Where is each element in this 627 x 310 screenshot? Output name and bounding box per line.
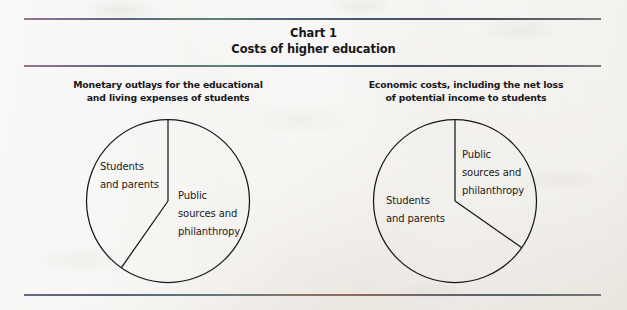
panel-left-heading: Monetary outlays for the educational and… [38, 78, 298, 104]
pie-right-label-students-and-parents: Students and parents [386, 192, 445, 228]
panel-left-heading-line1: Monetary outlays for the educational [38, 78, 298, 91]
pie-left-label-public-sources-and-philanthropy: Public sources and philanthropy [178, 187, 240, 241]
pie-divider-125deg [455, 201, 522, 248]
panel-right-heading-line2: of potential income to students [335, 91, 597, 104]
chart-title: Costs of higher education [0, 41, 627, 57]
scanned-figure-page: Chart 1 Costs of higher education Moneta… [0, 0, 627, 310]
divider-rule-top [24, 18, 601, 20]
figure-title-block: Chart 1 Costs of higher education [0, 25, 627, 57]
panel-left-heading-line2: and living expenses of students [38, 91, 298, 104]
chart-number: Chart 1 [0, 25, 627, 41]
panel-right-heading-line1: Economic costs, including the net loss [335, 78, 597, 91]
divider-rule-bottom [24, 294, 601, 296]
panel-monetary-outlays: Monetary outlays for the educational and… [38, 78, 298, 104]
pie-left-label-students-and-parents: Students and parents [100, 158, 159, 194]
pie-divider-215deg [121, 201, 168, 268]
panel-economic-costs: Economic costs, including the net loss o… [335, 78, 597, 104]
divider-rule-middle [24, 65, 601, 67]
panel-right-heading: Economic costs, including the net loss o… [335, 78, 597, 104]
pie-right-label-public-sources-and-philanthropy: Public sources and philanthropy [462, 146, 524, 200]
